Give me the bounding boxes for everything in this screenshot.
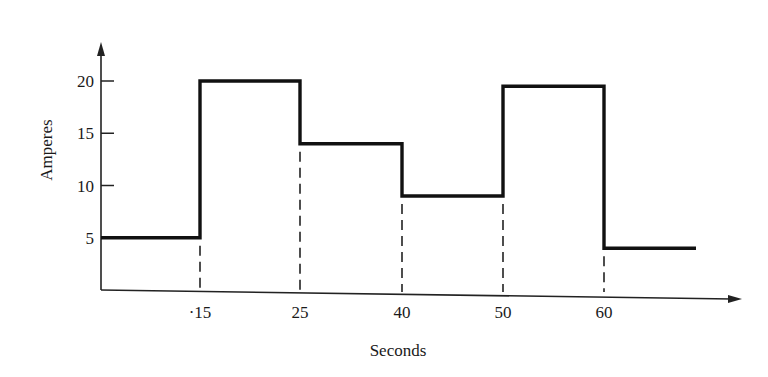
y-axis-label: Amperes	[37, 119, 56, 180]
y-axis-arrow-icon	[97, 42, 105, 56]
axes	[97, 42, 742, 303]
x-tick-label: 50	[495, 303, 512, 322]
x-tick-label: 60	[596, 303, 613, 322]
y-tick-label: 10	[77, 177, 94, 196]
series-current	[101, 81, 696, 248]
x-tick-label: 25	[292, 303, 309, 322]
y-tick-label: 15	[77, 124, 94, 143]
y-tick-label: 20	[77, 72, 94, 91]
x-tick-label: ·15	[189, 303, 212, 322]
x-axis-label: Seconds	[370, 341, 427, 360]
x-axis-arrow-icon	[728, 295, 742, 303]
y-tick-label: 5	[86, 229, 95, 248]
step-line	[101, 81, 696, 248]
x-axis	[101, 290, 732, 299]
x-tick-label: 40	[394, 303, 411, 322]
step-chart: 5101520·1525405060 Seconds Amperes	[0, 0, 768, 377]
tick-labels: 5101520·1525405060	[77, 72, 613, 322]
